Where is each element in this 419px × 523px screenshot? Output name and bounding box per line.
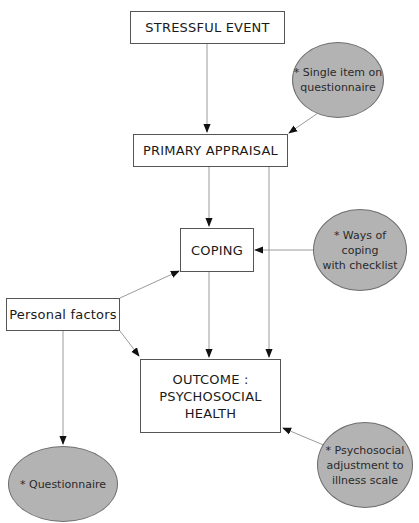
- ways-of-coping-measure-ellipse: * Ways of coping with checklist: [313, 209, 407, 291]
- psychosocial-line2: adjustment to: [326, 458, 405, 473]
- ways-of-coping-line2: with checklist: [314, 258, 406, 273]
- psychosocial-adjustment-measure-ellipse: * Psychosocial adjustment to illness sca…: [317, 422, 413, 508]
- stressful-event-label: STRESSFUL EVENT: [145, 19, 269, 36]
- outcome-line2: PSYCHOSOCIAL: [159, 388, 261, 405]
- single-item-line1: * Single item on: [294, 65, 382, 80]
- ways-of-coping-line1: * Ways of coping: [314, 228, 406, 258]
- outcome-line1: OUTCOME :: [159, 371, 261, 388]
- outcome-line3: HEALTH: [159, 405, 261, 422]
- single-item-line2: questionnaire: [294, 80, 382, 95]
- coping-label: COPING: [191, 242, 243, 259]
- single-item-measure-ellipse: * Single item on questionnaire: [292, 42, 384, 118]
- questionnaire-measure-ellipse: * Questionnaire: [8, 446, 118, 522]
- questionnaire-label: * Questionnaire: [20, 477, 106, 492]
- personal-factors-label: Personal factors: [9, 306, 116, 323]
- psychosocial-line1: * Psychosocial: [326, 443, 405, 458]
- coping-box: COPING: [180, 228, 254, 272]
- stressful-event-box: STRESSFUL EVENT: [130, 11, 285, 44]
- primary-appraisal-box: PRIMARY APPRAISAL: [133, 134, 288, 167]
- personal-factors-box: Personal factors: [6, 298, 120, 331]
- primary-appraisal-label: PRIMARY APPRAISAL: [143, 142, 278, 159]
- outcome-box: OUTCOME : PSYCHOSOCIAL HEALTH: [140, 359, 281, 433]
- psychosocial-line3: illness scale: [326, 473, 405, 488]
